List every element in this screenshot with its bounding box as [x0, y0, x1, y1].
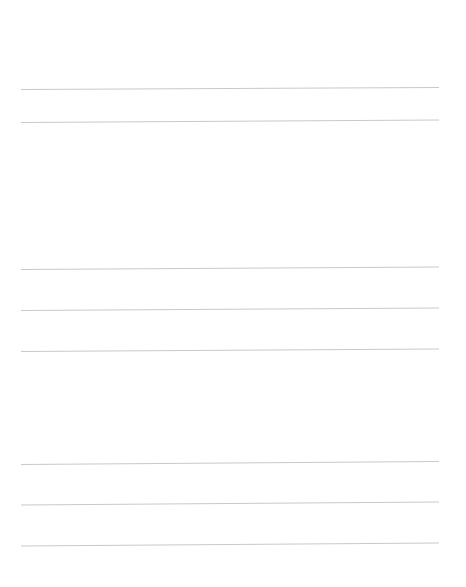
blank-lined-page	[0, 0, 466, 587]
ruled-line-4	[21, 308, 439, 311]
ruled-line-7	[21, 502, 439, 505]
ruled-line-3	[21, 267, 439, 270]
ruled-line-8	[21, 543, 439, 546]
ruled-line-5	[21, 349, 439, 352]
ruled-line-1	[21, 88, 439, 90]
ruled-line-2	[21, 120, 439, 123]
ruled-line-6	[21, 462, 439, 465]
ruled-lines	[0, 0, 466, 587]
